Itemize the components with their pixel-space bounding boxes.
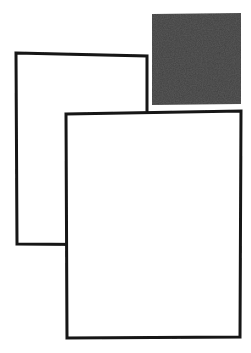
front-outlined-square <box>66 111 241 338</box>
filled-black-square-body <box>152 13 241 105</box>
filled-black-square <box>152 13 241 105</box>
front-outlined-square-body <box>66 111 241 338</box>
overlapping-squares-figure <box>0 0 251 353</box>
drawing-canvas <box>0 0 251 353</box>
